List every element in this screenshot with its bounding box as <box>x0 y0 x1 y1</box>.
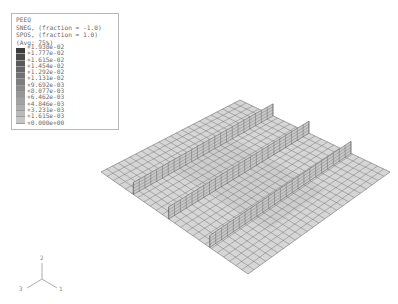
triad-label-2: 2 <box>40 254 44 261</box>
legend-value: +0.000e+00 <box>27 120 64 126</box>
contour-legend: PEEQSNEG, (fraction = -1.0)SPOS, (fracti… <box>11 13 119 130</box>
legend-swatch <box>16 117 25 123</box>
legend-color-bar <box>16 48 25 124</box>
legend-section-pos: SPOS, (fraction = 1.0) <box>16 31 102 39</box>
legend-section-neg: SNEG, (fraction = -1.0) <box>16 24 102 32</box>
legend-value-list: +1.938e-02+1.777e-02+1.615e-02+1.454e-02… <box>27 44 64 126</box>
legend-header: PEEQSNEG, (fraction = -1.0)SPOS, (fracti… <box>16 16 102 46</box>
triad-label-3: 3 <box>19 285 23 292</box>
coordinate-triad: 2 3 1 <box>0 245 70 304</box>
triad-label-1: 1 <box>59 285 63 292</box>
legend-variable: PEEQ <box>16 16 102 24</box>
triad-axes-icon: 2 3 1 <box>0 245 70 300</box>
